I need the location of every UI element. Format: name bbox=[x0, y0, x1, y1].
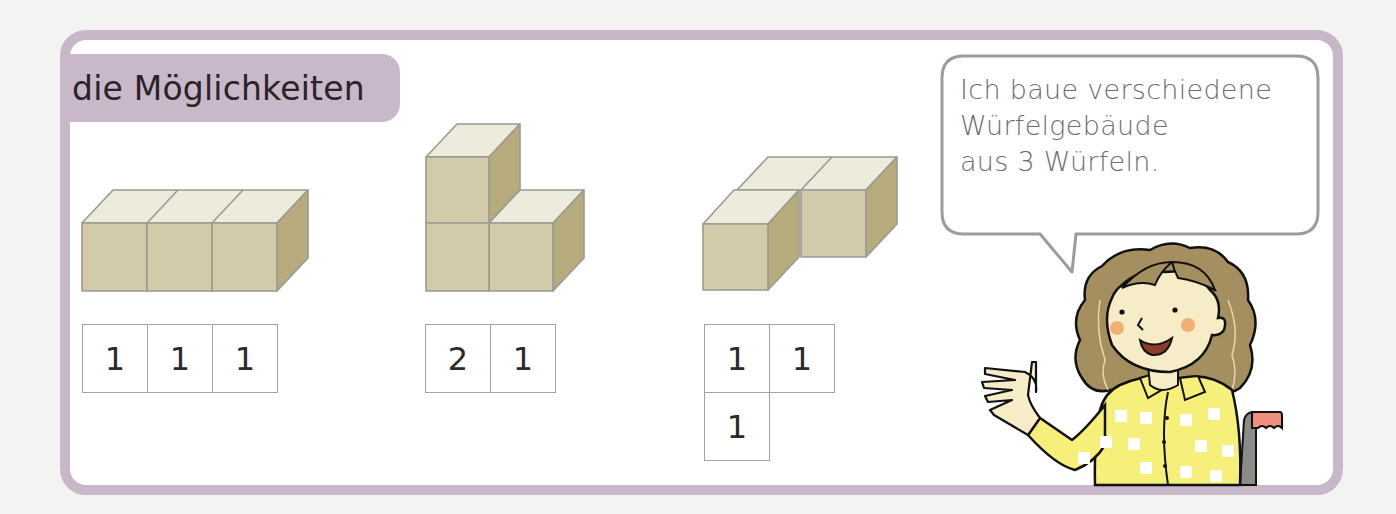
girl-character-illustration bbox=[0, 0, 1396, 514]
wheelchair-handle-icon bbox=[1240, 412, 1282, 485]
yellow-shirt bbox=[1028, 372, 1240, 485]
waving-hand bbox=[982, 362, 1040, 435]
